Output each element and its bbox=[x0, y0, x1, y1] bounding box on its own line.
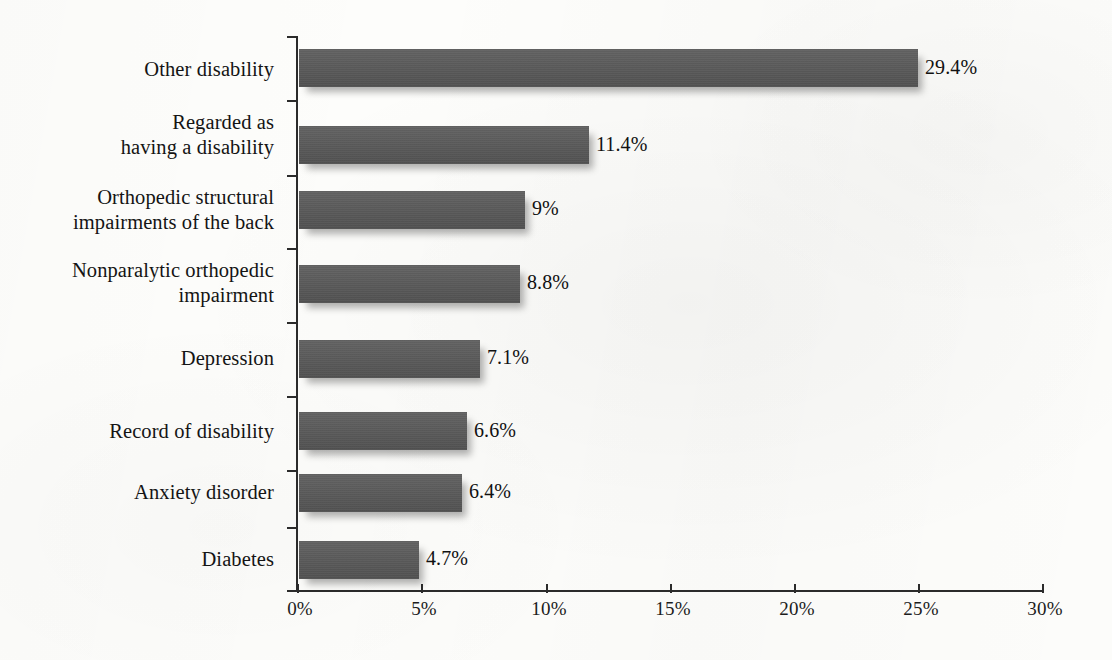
bar-container bbox=[299, 412, 467, 450]
y-axis-tick bbox=[287, 396, 298, 398]
category-label: Record of disability bbox=[109, 419, 274, 444]
category-label: Diabetes bbox=[201, 547, 274, 572]
y-axis-tick bbox=[287, 527, 298, 529]
bar bbox=[299, 474, 462, 512]
bar-value-label: 4.7% bbox=[426, 547, 468, 570]
bar-container bbox=[299, 191, 525, 229]
bar bbox=[299, 126, 589, 164]
category-label: Depression bbox=[181, 346, 274, 371]
x-axis-tick-label: 20% bbox=[779, 598, 814, 620]
bar-value-label: 29.4% bbox=[925, 56, 977, 79]
bar bbox=[299, 541, 419, 579]
x-axis-tick-label: 25% bbox=[903, 598, 938, 620]
x-axis-tick-label: 5% bbox=[411, 598, 437, 620]
x-axis-tick bbox=[546, 584, 548, 593]
bar-value-label: 6.4% bbox=[469, 480, 511, 503]
category-label: Anxiety disorder bbox=[134, 480, 274, 505]
x-axis-tick bbox=[1042, 584, 1044, 593]
bar-value-label: 7.1% bbox=[487, 346, 529, 369]
bar-fill bbox=[299, 340, 480, 378]
bar-chart: 0% 5% 10% 15% 20% 25% 30% Other disabili… bbox=[0, 0, 1112, 660]
bar-container bbox=[299, 126, 589, 164]
x-axis-tick bbox=[297, 584, 299, 593]
bar-value-label: 8.8% bbox=[527, 271, 569, 294]
y-axis-tick bbox=[287, 248, 298, 250]
bar-fill bbox=[299, 412, 467, 450]
bar bbox=[299, 412, 467, 450]
bar-fill bbox=[299, 474, 462, 512]
category-label: Other disability bbox=[144, 57, 274, 82]
category-label: Nonparalytic orthopedic impairment bbox=[72, 258, 274, 308]
bar bbox=[299, 49, 918, 87]
bar bbox=[299, 191, 525, 229]
chart-page: 0% 5% 10% 15% 20% 25% 30% Other disabili… bbox=[0, 0, 1112, 660]
bar-fill bbox=[299, 191, 525, 229]
bar-container bbox=[299, 340, 480, 378]
x-axis-tick-label: 30% bbox=[1027, 598, 1062, 620]
x-axis-tick bbox=[670, 584, 672, 593]
y-axis-tick bbox=[287, 470, 298, 472]
category-label: Orthopedic structural impairments of the… bbox=[73, 185, 274, 235]
bar-container bbox=[299, 49, 918, 87]
bar-container bbox=[299, 541, 419, 579]
bar-value-label: 9% bbox=[532, 197, 559, 220]
bar bbox=[299, 340, 480, 378]
x-axis-tick-label: 10% bbox=[531, 598, 566, 620]
bar-container bbox=[299, 474, 462, 512]
bar-fill bbox=[299, 265, 520, 303]
bar-value-label: 6.6% bbox=[474, 419, 516, 442]
y-axis-tick bbox=[287, 175, 298, 177]
bar-fill bbox=[299, 126, 589, 164]
y-axis-line bbox=[296, 36, 298, 592]
bar bbox=[299, 265, 520, 303]
bar-value-label: 11.4% bbox=[596, 133, 647, 156]
x-axis-tick bbox=[794, 584, 796, 593]
y-axis-tick bbox=[287, 36, 298, 38]
y-axis-tick bbox=[287, 322, 298, 324]
y-axis-tick bbox=[287, 100, 298, 102]
bar-fill bbox=[299, 49, 918, 87]
category-label: Regarded as having a disability bbox=[121, 110, 274, 160]
x-axis-tick-label: 0% bbox=[287, 598, 313, 620]
x-axis-tick bbox=[421, 584, 423, 593]
x-axis-tick bbox=[918, 584, 920, 593]
bar-fill bbox=[299, 541, 419, 579]
bar-container bbox=[299, 265, 520, 303]
x-axis-tick-label: 15% bbox=[655, 598, 690, 620]
